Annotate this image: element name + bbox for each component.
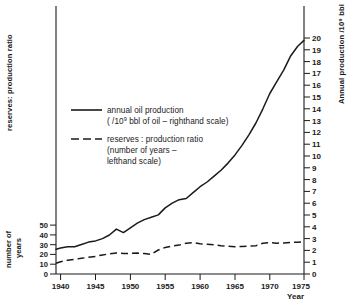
right-tick-label: 8 (312, 176, 317, 185)
right-tick-label: 14 (312, 105, 321, 114)
right-tick-label: 4 (312, 223, 317, 232)
left-tick-label: 0 (44, 270, 48, 279)
x-tick-label: 1965 (226, 282, 244, 291)
left-tick-label: 20 (40, 250, 48, 259)
x-axis-title: Year (287, 292, 304, 301)
x-tick-label: 1955 (156, 282, 174, 291)
right-tick-label: 0 (312, 270, 317, 279)
oil-production-chart: 0 10 20 30 40 50 number of years reserve… (0, 0, 349, 302)
legend-label-ratio-line1: reserves : production ratio (107, 135, 203, 144)
right-axis-title: Annual production /10⁹ bbl (337, 4, 346, 104)
x-tick-label: 1950 (122, 282, 140, 291)
right-tick-label: 11 (312, 140, 321, 149)
x-tick-label: 1940 (52, 282, 70, 291)
right-tick-label: 16 (312, 81, 321, 90)
right-tick-label: 7 (312, 187, 317, 196)
x-axis-ticks (61, 274, 304, 280)
left-axis-ticks (50, 225, 56, 274)
left-axis-unit-label: number of years (4, 230, 23, 268)
right-tick-label: 9 (312, 164, 317, 173)
chart-svg: 0 10 20 30 40 50 number of years reserve… (0, 0, 349, 302)
right-tick-label: 18 (312, 58, 321, 67)
right-tick-label: 10 (312, 152, 321, 161)
x-tick-label: 1945 (87, 282, 105, 291)
left-tick-label: 30 (40, 241, 48, 250)
legend-label-ratio-line2: (number of years – (107, 146, 177, 155)
right-tick-label: 2 (312, 246, 317, 255)
x-tick-label: 1975 (292, 282, 310, 291)
right-axis-tick-labels: 0 1 2 3 4 5 6 7 8 9 10 11 12 13 14 15 16… (312, 34, 321, 279)
legend-production-prefix: ( /10 (107, 117, 124, 126)
chart-legend: annual oil production ( /109 bbl of oil … (71, 106, 229, 166)
right-tick-label: 17 (312, 69, 321, 78)
x-axis-tick-labels: 1940 1945 1950 1955 1960 1965 1970 1975 (52, 282, 311, 291)
left-axis-unit-line1: number of (4, 230, 13, 268)
right-tick-label: 5 (312, 211, 317, 220)
right-tick-label: 19 (312, 46, 321, 55)
right-tick-label: 20 (312, 34, 321, 43)
right-axis-ticks (304, 38, 310, 274)
left-axis-tick-labels: 0 10 20 30 40 50 (40, 221, 48, 279)
right-tick-label: 1 (312, 258, 317, 267)
left-tick-label: 10 (40, 260, 48, 269)
right-tick-label: 3 (312, 235, 317, 244)
legend-production-suffix: bbl of oil – righthand scale) (127, 117, 229, 126)
left-axis-title: reserves: production ratio (5, 34, 14, 131)
left-tick-label: 40 (40, 231, 48, 240)
right-tick-label: 15 (312, 93, 321, 102)
right-tick-label: 13 (312, 117, 321, 126)
legend-label-ratio-line3: lefthand scale) (107, 157, 161, 166)
x-tick-label: 1960 (191, 282, 209, 291)
x-tick-label: 1970 (261, 282, 279, 291)
right-tick-label: 6 (312, 199, 317, 208)
legend-label-production-line1: annual oil production (107, 106, 184, 115)
legend-label-production-line2: ( /109 bbl of oil – righthand scale) (107, 116, 229, 126)
left-tick-label: 50 (40, 221, 48, 230)
series-reserves-production-ratio (56, 242, 304, 263)
left-axis-unit-line2: years (14, 238, 23, 258)
series-annual-oil-production (56, 40, 304, 249)
right-tick-label: 12 (312, 128, 321, 137)
